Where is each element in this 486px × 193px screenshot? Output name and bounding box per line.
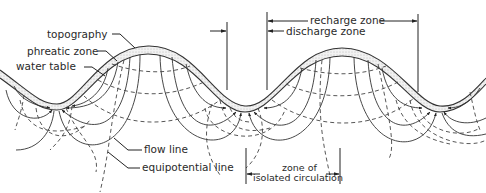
flow-lines [6, 55, 486, 150]
isolated-zone-label-2: isolated circulation [253, 172, 343, 183]
flow-line-label: flow line [144, 143, 188, 155]
water-table-label: water table [16, 60, 76, 72]
topography-label: topography [47, 28, 108, 40]
topography-leader [112, 34, 135, 48]
equipotential-lines [15, 60, 486, 192]
equipotential-line-leader [108, 152, 140, 168]
equipotential-line-label: equipotential line [142, 161, 234, 173]
discharge-zone-label: discharge zone [286, 25, 366, 37]
groundwater-flow-diagram: recharge zone discharge zone topography … [0, 0, 486, 193]
phreatic-zone-label: phreatic zone [27, 45, 99, 57]
flow-line-leader [114, 138, 142, 150]
